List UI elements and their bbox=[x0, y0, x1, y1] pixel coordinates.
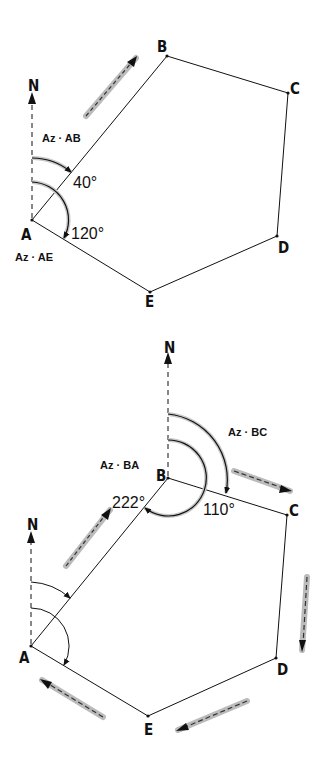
az-ba-label: Az · BA bbox=[100, 459, 139, 471]
vertex-e-label: E bbox=[145, 293, 154, 311]
north-arrow-icon bbox=[28, 92, 36, 218]
angle-bc-value: 110° bbox=[203, 501, 235, 518]
vertex-b-label: B bbox=[157, 38, 167, 56]
arc-az-ae bbox=[32, 182, 69, 238]
direction-arrow-icon bbox=[86, 56, 137, 116]
vertex-c-label: C bbox=[289, 502, 299, 520]
arc-az-ab bbox=[32, 158, 71, 172]
arc-az-ba bbox=[145, 440, 206, 516]
direction-arrow-de-icon bbox=[176, 701, 247, 731]
figure-top: N B C D E A Az · AB Az · AE 40° 120° bbox=[15, 38, 300, 311]
north-arrow-a-icon bbox=[27, 531, 35, 644]
angle-ae-value: 120° bbox=[71, 225, 104, 242]
vertex-d-label: D bbox=[277, 661, 288, 679]
north-label-a: N bbox=[27, 516, 38, 534]
vertex-a-label: A bbox=[19, 649, 30, 667]
traverse-diagram: N B C D E A Az · AB Az · AE 40° 120° bbox=[0, 0, 327, 765]
vertex-a-label: A bbox=[21, 226, 32, 244]
az-ae-label: Az · AE bbox=[15, 251, 53, 263]
north-label: N bbox=[28, 77, 39, 95]
direction-arrow-ab-icon bbox=[66, 508, 111, 566]
north-label-b: N bbox=[164, 339, 175, 357]
az-ab-label: Az · AB bbox=[42, 132, 81, 144]
angle-ba-value: 222° bbox=[112, 494, 145, 511]
vertex-d-label: D bbox=[278, 239, 289, 257]
direction-arrow-ea-icon bbox=[40, 679, 103, 717]
direction-arrow-cd-icon bbox=[299, 577, 307, 652]
az-bc-label: Az · BC bbox=[228, 426, 267, 438]
figure-bottom: N N B C D E A Az · BA Az · BC 222° 110° bbox=[19, 339, 307, 739]
vertex-e-label: E bbox=[144, 721, 153, 739]
vertex-b-label: B bbox=[156, 467, 166, 485]
angle-ab-value: 40° bbox=[73, 174, 97, 191]
traverse-polygon-top bbox=[32, 56, 288, 292]
direction-arrow-bc-icon bbox=[234, 471, 292, 493]
vertex-c-label: C bbox=[290, 80, 300, 98]
